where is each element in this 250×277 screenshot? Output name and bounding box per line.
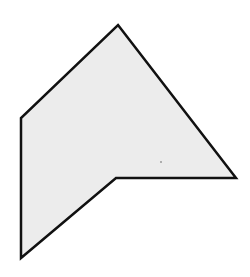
polygon-shape [21,25,236,258]
diagram-canvas [0,0,250,277]
scan-speck [160,161,162,163]
polygon-figure [0,0,250,277]
